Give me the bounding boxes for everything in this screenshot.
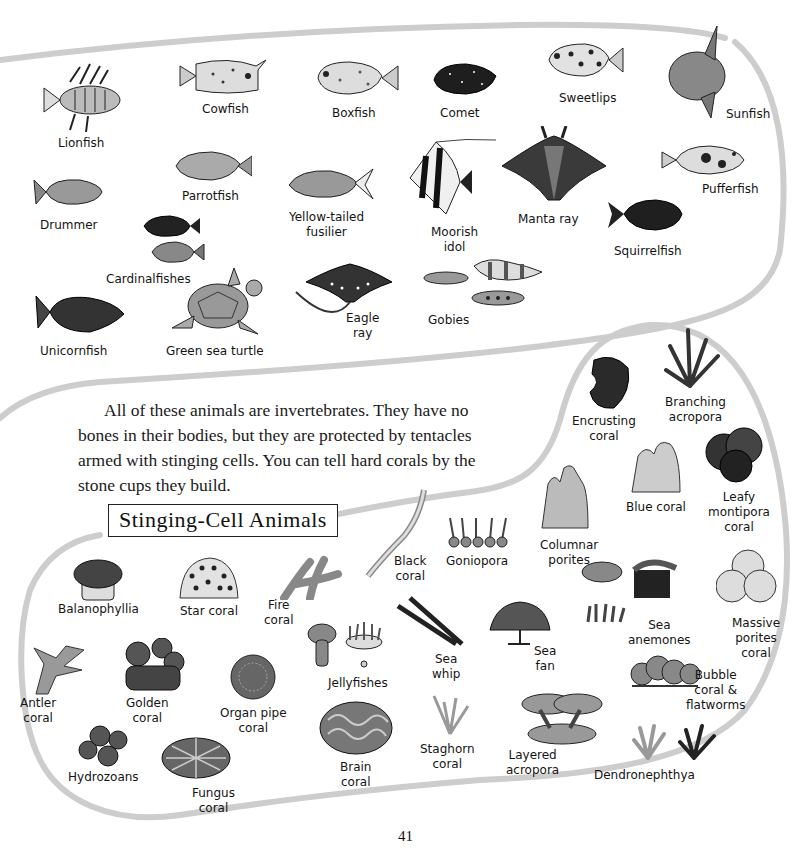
label-unicornfish: Unicornfish xyxy=(40,344,107,359)
label-leafy-montipora-coral: Leafy montipora coral xyxy=(708,490,770,535)
encrusting-coral-illustration xyxy=(584,352,634,412)
label-boxfish: Boxfish xyxy=(332,106,376,121)
moorish-idol-illustration xyxy=(406,138,498,218)
leafy-montipora-coral-illustration xyxy=(702,424,766,484)
label-brain-coral: Brain coral xyxy=(340,760,371,790)
label-encrusting-coral: Encrusting coral xyxy=(572,414,636,444)
staghorn-coral-illustration xyxy=(430,692,470,736)
sea-fan-illustration xyxy=(486,600,552,646)
columnar-porites-illustration xyxy=(540,460,592,530)
label-eagle-ray: Eagle ray xyxy=(346,311,379,341)
fungus-coral-illustration xyxy=(160,736,232,780)
label-fire-coral: Fire coral xyxy=(264,598,294,628)
gobies-illustration xyxy=(418,254,546,310)
label-golden-coral: Golden coral xyxy=(126,696,169,726)
label-dendronephthya: Dendronephthya xyxy=(594,768,695,783)
fire-coral-illustration xyxy=(280,554,342,600)
label-staghorn-coral: Staghorn coral xyxy=(420,742,475,772)
label-massive-porites-coral: Massive porites coral xyxy=(732,616,780,661)
label-balanophyllia: Balanophyllia xyxy=(58,602,139,617)
intro-paragraph: All of these animals are invertebrates. … xyxy=(78,398,488,498)
label-drummer: Drummer xyxy=(40,218,97,233)
sunfish-illustration xyxy=(665,24,735,120)
label-comet: Comet xyxy=(440,106,480,121)
cowfish-illustration xyxy=(178,56,268,98)
label-lionfish: Lionfish xyxy=(58,136,104,151)
lionfish-illustration xyxy=(40,62,130,132)
blue-coral-illustration xyxy=(628,436,684,494)
manta-ray-illustration xyxy=(500,126,608,208)
unicornfish-illustration xyxy=(34,288,126,340)
label-sea-whip: Sea whip xyxy=(432,652,460,682)
label-layered-acropora: Layered acropora xyxy=(506,748,559,778)
label-hydrozoans: Hydrozoans xyxy=(68,770,139,785)
pufferfish-illustration xyxy=(660,140,746,180)
label-squirrelfish: Squirrelfish xyxy=(614,244,682,259)
jellyfishes-illustration xyxy=(304,618,384,672)
label-black-coral: Black coral xyxy=(394,554,426,584)
antler-coral-illustration xyxy=(26,640,90,696)
balanophyllia-illustration xyxy=(70,556,126,602)
squirrelfish-illustration xyxy=(606,192,686,236)
label-columnar-porites: Columnar porites xyxy=(540,538,598,568)
golden-coral-illustration xyxy=(120,638,186,694)
comet-illustration xyxy=(430,58,500,102)
label-green-sea-turtle: Green sea turtle xyxy=(166,344,264,359)
layered-acropora-illustration xyxy=(520,690,604,748)
label-gobies: Gobies xyxy=(428,313,469,328)
label-sweetlips: Sweetlips xyxy=(559,91,616,106)
boxfish-illustration xyxy=(310,56,400,100)
label-manta-ray: Manta ray xyxy=(518,212,579,227)
label-branching-acropora: Branching acropora xyxy=(665,395,726,425)
hydrozoans-illustration xyxy=(76,724,132,768)
label-cowfish: Cowfish xyxy=(202,102,249,117)
label-star-coral: Star coral xyxy=(180,604,238,619)
label-sea-fan: Sea fan xyxy=(534,644,556,674)
label-pufferfish: Pufferfish xyxy=(702,182,759,197)
label-sunfish: Sunfish xyxy=(726,107,770,122)
brain-coral-illustration xyxy=(318,700,394,756)
dendronephthya-illustration xyxy=(630,722,720,760)
label-moorish-idol: Moorish idol xyxy=(431,225,478,255)
sea-whip-illustration xyxy=(396,596,466,648)
label-blue-coral: Blue coral xyxy=(626,500,686,515)
section-heading: Stinging-Cell Animals xyxy=(108,504,338,537)
label-goniopora: Goniopora xyxy=(446,554,508,569)
label-antler-coral: Antler coral xyxy=(20,696,56,726)
organ-pipe-coral-illustration xyxy=(228,652,278,702)
star-coral-illustration xyxy=(178,556,240,600)
page-number: 41 xyxy=(398,828,413,845)
drummer-illustration xyxy=(32,172,104,212)
label-fungus-coral: Fungus coral xyxy=(192,786,235,816)
label-sea-anemones: Sea anemones xyxy=(628,618,691,648)
yellow-tailed-fusilier-illustration xyxy=(285,165,375,205)
branching-acropora-illustration xyxy=(660,326,720,388)
cardinalfishes-illustration xyxy=(136,212,206,268)
massive-porites-coral-illustration xyxy=(716,548,778,606)
goniopora-illustration xyxy=(446,514,510,548)
sweetlips-illustration xyxy=(545,36,625,84)
label-parrotfish: Parrotfish xyxy=(182,189,239,204)
label-cardinalfishes: Cardinalfishes xyxy=(106,272,191,287)
label-bubble-coral-flatworms: Bubble coral & flatworms xyxy=(686,668,745,713)
label-organ-pipe-coral: Organ pipe coral xyxy=(220,706,287,736)
label-jellyfishes: Jellyfishes xyxy=(328,676,388,691)
parrotfish-illustration xyxy=(172,148,252,184)
label-yellow-tailed-fusilier: Yellow-tailed fusilier xyxy=(289,210,364,240)
